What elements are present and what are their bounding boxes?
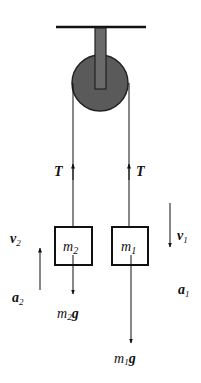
velocity-label-right: v1 xyxy=(177,228,188,245)
pulley-mount xyxy=(95,28,106,89)
accel-label-right: a1 xyxy=(178,282,190,299)
tension-label-left: T xyxy=(54,164,64,179)
tension-label-right: T xyxy=(136,164,146,179)
weight-label-left: m2g xyxy=(57,306,79,322)
accel-label-left: a2 xyxy=(12,290,24,307)
velocity-label-left: v2 xyxy=(10,231,21,248)
weight-label-right: m1g xyxy=(114,351,136,367)
atwood-diagram: T T m2 m1 m2g m1g v2 a2 v1 a1 xyxy=(0,0,201,383)
